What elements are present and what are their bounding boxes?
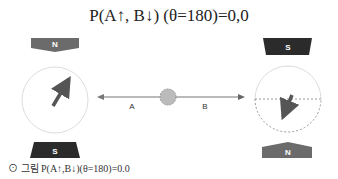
left-spin-arrow-icon (53, 79, 69, 106)
stern-gerlach-diagram: N S A B S N (0, 0, 338, 179)
svg-text:N: N (52, 40, 58, 49)
left-top-magnet-n: N (31, 38, 79, 52)
beam-right-arrowhead-icon (238, 94, 245, 100)
figure-caption: ⊙ 그림 P(A↑,B↓)(θ=180)=0.0 (8, 160, 130, 175)
label-a: A (129, 102, 135, 111)
svg-text:S: S (52, 147, 58, 156)
particle-source-icon (160, 89, 176, 105)
svg-text:S: S (285, 43, 291, 52)
right-top-magnet-s: S (263, 38, 312, 55)
svg-text:N: N (285, 148, 291, 157)
left-bottom-magnet-s: S (30, 142, 80, 158)
beam-left-arrowhead-icon (97, 94, 104, 100)
label-b: B (202, 102, 207, 111)
right-bottom-magnet-n: N (262, 142, 312, 158)
right-spin-arrow-icon (283, 95, 292, 117)
